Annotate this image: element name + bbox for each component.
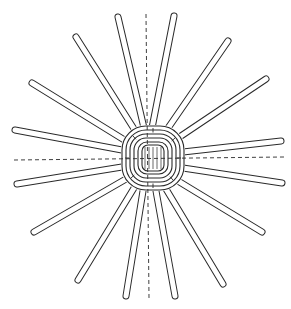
spoke	[166, 41, 228, 131]
spoke	[126, 191, 143, 296]
basket-base-diagram	[0, 0, 291, 309]
spoke	[152, 16, 174, 128]
spoke	[156, 191, 175, 296]
spoke	[183, 141, 281, 152]
spoke	[15, 130, 122, 150]
spoke	[178, 79, 266, 138]
spoke	[17, 167, 122, 184]
spoke	[183, 168, 282, 183]
